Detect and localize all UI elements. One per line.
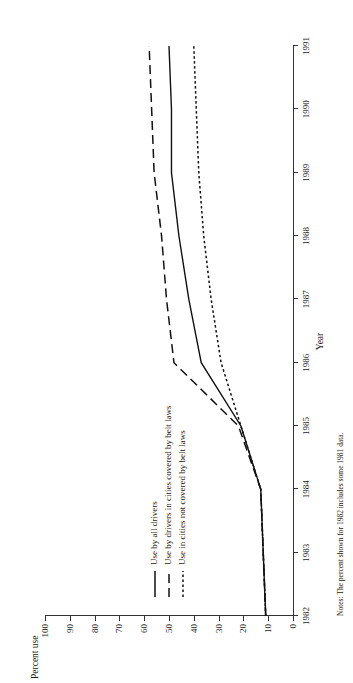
y-tick-mark: [293, 616, 294, 621]
chart-figure: Percent use 0102030405060708090100 19821…: [0, 0, 353, 683]
y-tick-mark: [95, 616, 96, 621]
y-tick-mark: [194, 616, 195, 621]
x-tick-label: 1983: [302, 544, 311, 562]
y-axis-title: Percent use: [30, 635, 40, 679]
y-tick-label: 100: [41, 624, 50, 638]
x-tick-mark: [293, 172, 298, 173]
x-tick-label: 1985: [302, 417, 311, 435]
x-tick-label: 1984: [302, 480, 311, 498]
y-tick-label: 50: [165, 624, 174, 633]
y-tick-label: 30: [214, 624, 223, 633]
y-tick-mark: [70, 616, 71, 621]
y-tick-label: 40: [189, 624, 198, 633]
y-tick-label: 90: [65, 624, 74, 633]
legend-line-swatch-solid: [151, 571, 159, 597]
y-tick-mark: [119, 616, 120, 621]
y-tick-mark: [268, 616, 269, 621]
x-tick-mark: [293, 235, 298, 236]
legend-item: Use by drivers in cities covered by belt…: [164, 406, 173, 597]
legend-item: Use in cities not covered by belt laws: [178, 406, 187, 597]
x-tick-label: 1989: [302, 164, 311, 182]
y-tick-mark: [169, 616, 170, 621]
y-tick-mark: [45, 616, 46, 621]
x-axis-line: [293, 46, 294, 616]
x-tick-label: 1988: [302, 227, 311, 245]
y-tick-label: 80: [90, 624, 99, 633]
x-tick-label: 1991: [302, 37, 311, 55]
legend-label: Use by drivers in cities covered by belt…: [164, 406, 173, 565]
figure-note: Notes: The percent shown for 1982 includ…: [336, 432, 345, 616]
y-tick-label: 20: [239, 624, 248, 633]
series-line: [194, 46, 266, 616]
x-tick-mark: [293, 362, 298, 363]
x-tick-mark: [293, 108, 298, 109]
x-tick-mark: [293, 552, 298, 553]
y-tick-label: 60: [140, 624, 149, 633]
x-tick-mark: [293, 298, 298, 299]
x-tick-label: 1987: [302, 290, 311, 308]
x-tick-mark: [293, 425, 298, 426]
y-tick-label: 70: [115, 624, 124, 633]
chart-legend: Use by all driversUse by drivers in citi…: [150, 406, 187, 597]
y-tick-label: 10: [264, 624, 273, 633]
legend-item: Use by all drivers: [150, 406, 159, 597]
x-tick-label: 1986: [302, 354, 311, 372]
legend-line-swatch-dashed: [165, 571, 173, 597]
x-tick-label: 1990: [302, 100, 311, 118]
x-tick-mark: [293, 45, 298, 46]
chart-canvas: Percent use 0102030405060708090100 19821…: [0, 0, 353, 683]
x-tick-mark: [293, 615, 298, 616]
y-tick-mark: [144, 616, 145, 621]
y-tick-mark: [243, 616, 244, 621]
x-axis-title: Year: [315, 333, 325, 351]
y-tick-mark: [219, 616, 220, 621]
x-tick-mark: [293, 488, 298, 489]
legend-line-swatch-dotted: [179, 571, 187, 597]
x-tick-label: 1982: [302, 607, 311, 625]
y-tick-label: 0: [289, 624, 298, 629]
legend-label: Use in cities not covered by belt laws: [178, 430, 187, 565]
legend-label: Use by all drivers: [150, 501, 159, 565]
